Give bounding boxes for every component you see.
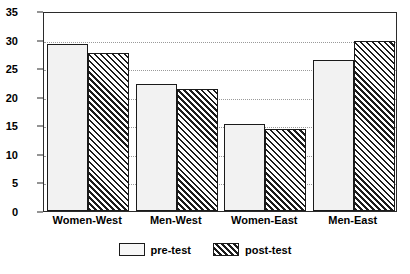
- x-tick-label-men-east: Men-East: [328, 214, 377, 226]
- bar-group-men-east: [313, 13, 395, 211]
- y-tick-label-35: 35: [6, 6, 18, 18]
- bar-group-women-west: [47, 13, 129, 211]
- bar-women-west-post-test: [88, 53, 129, 211]
- bar-men-west-post-test: [177, 89, 218, 211]
- legend-label-post-test: post-test: [245, 244, 291, 256]
- y-tick-label-30: 30: [6, 35, 18, 47]
- bar-women-east-pre-test: [224, 124, 265, 211]
- x-tick-label-women-west: Women-West: [53, 214, 122, 226]
- bar-women-west-pre-test: [47, 44, 88, 211]
- bar-chart-figure: 05101520253035 Women-WestMen-WestWomen-E…: [0, 0, 410, 274]
- legend-entry-pre-test: pre-test: [119, 243, 191, 256]
- y-tick-label-20: 20: [6, 92, 18, 104]
- legend-label-pre-test: pre-test: [151, 244, 191, 256]
- x-tick-label-men-west: Men-West: [150, 214, 202, 226]
- chart-legend: pre-test post-test: [0, 243, 410, 256]
- y-tick-label-15: 15: [6, 120, 18, 132]
- bar-group-men-west: [136, 13, 218, 211]
- bar-women-east-post-test: [265, 129, 306, 211]
- diagonal-hatch-swatch: [213, 243, 239, 256]
- x-axis: Women-WestMen-WestWomen-EastMen-East: [43, 214, 397, 234]
- x-tick-label-women-east: Women-East: [231, 214, 297, 226]
- y-tick-label-5: 5: [12, 177, 18, 189]
- dotted-fill-swatch: [119, 243, 145, 256]
- bar-group-women-east: [224, 13, 306, 211]
- legend-entry-post-test: post-test: [213, 243, 291, 256]
- bar-men-east-pre-test: [313, 60, 354, 211]
- y-tick-label-0: 0: [12, 206, 18, 218]
- y-tick-label-10: 10: [6, 149, 18, 161]
- plot-area: [43, 12, 397, 212]
- y-tick-label-25: 25: [6, 63, 18, 75]
- y-axis: 05101520253035: [0, 0, 43, 274]
- bar-men-west-pre-test: [136, 84, 177, 211]
- bar-men-east-post-test: [354, 41, 395, 211]
